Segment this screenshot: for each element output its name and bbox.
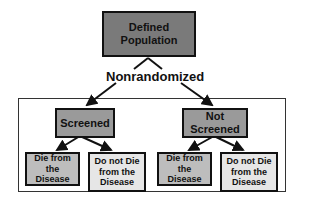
screened-die-box: Die from the Disease	[25, 152, 80, 186]
not-screened-label: Not Screened	[184, 110, 246, 135]
defined-population-label: Defined Population	[119, 21, 179, 46]
screened-label: Screened	[60, 117, 110, 130]
not-screened-die-box: Die from the Disease	[157, 152, 212, 186]
not-screened-die-label: Die from the Disease	[160, 153, 210, 184]
not-screened-survive-label: Do not Die from the Disease	[222, 156, 276, 187]
defined-population-box: Defined Population	[102, 11, 196, 57]
screened-survive-box: Do not Die from the Disease	[88, 152, 146, 192]
not-screened-survive-box: Do not Die from the Disease	[220, 152, 278, 192]
screened-die-label: Die from the Disease	[28, 153, 78, 184]
not-screened-box: Not Screened	[182, 108, 248, 138]
screened-box: Screened	[55, 108, 115, 138]
screened-survive-label: Do not Die from the Disease	[90, 156, 144, 187]
nonrandomized-label: Nonrandomized	[106, 69, 204, 84]
